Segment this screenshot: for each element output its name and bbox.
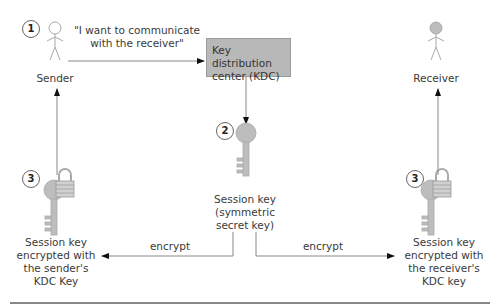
session-key-line1: Session key (200, 193, 290, 206)
sender-locked-key-icon (44, 169, 74, 235)
sender-encrypted-key-label: Session key encrypted with the sender's … (10, 236, 102, 288)
receiver-encrypted-key-label: Session key encrypted with the receiver'… (396, 236, 492, 288)
step-badge-3-receiver: 3 (406, 170, 424, 188)
step-badge-1: 1 (22, 20, 40, 38)
bottom-divider (10, 302, 490, 304)
session-key-label: Session key (symmetric secret key) (200, 193, 290, 232)
sender-key-line1: Session key (10, 236, 102, 249)
receiver-key-line2: encrypted with (396, 249, 492, 262)
session-key-line3: secret key) (200, 219, 290, 232)
receiver-label: Receiver (406, 72, 466, 85)
request-label-line1: "I want to communicate (72, 24, 202, 37)
kdc-label-line1: Key distribution (212, 44, 290, 70)
step-badge-3-sender: 3 (22, 170, 40, 188)
session-key-icon (236, 123, 256, 176)
session-key-line2: (symmetric (200, 206, 290, 219)
receiver-key-line1: Session key (396, 236, 492, 249)
receiver-key-line3: the receiver's (396, 262, 492, 275)
sender-key-line3: the sender's (10, 262, 102, 275)
sender-label: Sender (25, 72, 85, 85)
step-badge-2: 2 (216, 122, 234, 140)
encrypt-left-label: encrypt (145, 240, 195, 253)
request-label-line2: with the receiver" (72, 37, 202, 50)
kdc-box: Key distribution center (KDC) (206, 38, 291, 77)
sender-key-line2: encrypted with (10, 249, 102, 262)
sender-key-line4: KDC Key (10, 275, 102, 288)
encrypt-right-label: encrypt (298, 240, 348, 253)
receiver-locked-key-icon (421, 169, 451, 235)
receiver-key-line4: KDC key (396, 275, 492, 288)
receiver-person-icon (428, 22, 444, 60)
sender-person-icon (47, 22, 63, 60)
request-label: "I want to communicate with the receiver… (72, 24, 202, 50)
kdc-label-line2: center (KDC) (212, 70, 290, 83)
